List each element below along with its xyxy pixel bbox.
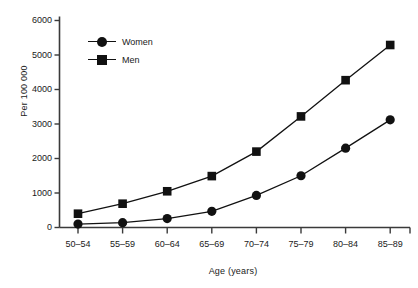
data-point-men <box>74 209 83 218</box>
data-point-men <box>297 112 306 121</box>
series-line-men <box>78 45 390 214</box>
data-point-women <box>163 214 172 223</box>
data-point-men <box>163 187 172 196</box>
data-point-men <box>341 76 350 85</box>
data-point-women <box>118 218 127 227</box>
data-point-women <box>386 115 395 124</box>
data-point-women <box>296 171 305 180</box>
data-point-women <box>207 207 216 216</box>
data-point-men <box>208 172 217 181</box>
plot-area <box>0 0 418 288</box>
series-line-women <box>78 120 390 224</box>
data-point-men <box>118 199 127 208</box>
data-point-women <box>341 144 350 153</box>
data-point-women <box>73 219 82 228</box>
data-point-women <box>252 191 261 200</box>
chart-container: Per 100 000 Age (years) 0100020003000400… <box>0 0 418 288</box>
data-point-men <box>386 41 395 50</box>
data-point-men <box>252 147 261 156</box>
